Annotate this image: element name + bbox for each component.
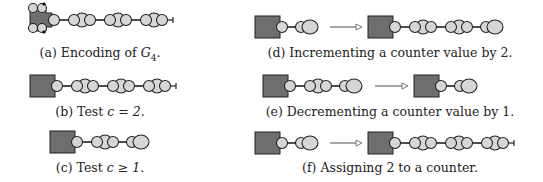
- counter-left: [446, 22, 457, 33]
- caption-text: Decrementing a counter value by 1.: [287, 104, 514, 119]
- caption-end: .: [156, 45, 160, 60]
- tail-ellipse: [346, 79, 362, 93]
- counter-right: [85, 15, 96, 26]
- caption-d: (d) Incrementing a counter value by 2.: [268, 45, 513, 60]
- counter-left: [482, 138, 493, 149]
- caption-e: (e) Decrementing a counter value by 1.: [266, 104, 515, 119]
- tail-ellipse: [302, 20, 318, 34]
- head-circle: [390, 138, 401, 149]
- counter-left: [410, 138, 421, 149]
- caption-math: c ≥ 1: [107, 160, 140, 175]
- counter-right: [108, 137, 119, 148]
- port-circle: [29, 4, 38, 13]
- counter-right: [498, 138, 509, 149]
- head-circle: [277, 22, 288, 33]
- counter-right: [462, 22, 473, 33]
- counter-right: [462, 138, 473, 149]
- caption-text: Test: [77, 160, 107, 175]
- caption-end: .: [141, 104, 145, 119]
- counter-right: [121, 15, 132, 26]
- counter-left: [108, 81, 119, 92]
- caption-c: (c) Test c ≥ 1.: [56, 160, 144, 175]
- arrowhead-icon: [402, 83, 408, 89]
- arrowhead-icon: [356, 24, 362, 30]
- counter-right: [321, 81, 332, 92]
- tail-ellipse: [487, 20, 503, 34]
- head-circle: [72, 137, 83, 148]
- caption-a: (a) Encoding of G4.: [40, 45, 161, 63]
- counter-right: [160, 81, 171, 92]
- head-circle: [390, 22, 401, 33]
- head-circle: [52, 81, 63, 92]
- counter-right: [124, 81, 135, 92]
- caption-math: G: [141, 45, 151, 60]
- caption-text: Encoding of: [61, 45, 141, 60]
- counter-left: [305, 81, 316, 92]
- counter-left: [144, 81, 155, 92]
- caption-text: Test: [77, 104, 107, 119]
- counter-right: [426, 138, 437, 149]
- counter-left: [92, 137, 103, 148]
- caption-math: c = 2: [107, 104, 140, 119]
- counter-left: [410, 22, 421, 33]
- counter-right: [426, 22, 437, 33]
- arrowhead-icon: [356, 140, 362, 146]
- port-dot: [42, 2, 45, 5]
- head-circle: [49, 15, 60, 26]
- counter-left: [446, 138, 457, 149]
- port-circle: [29, 24, 38, 33]
- caption-text: Incrementing a counter value by 2.: [289, 45, 512, 60]
- port-dot: [42, 30, 45, 33]
- counter-left: [105, 15, 116, 26]
- caption-b: (b) Test c = 2.: [55, 104, 144, 119]
- caption-label: (a): [40, 45, 57, 60]
- counter-right: [88, 81, 99, 92]
- counter-left: [141, 15, 152, 26]
- head-circle: [436, 81, 447, 92]
- caption-label: (b): [55, 104, 73, 119]
- diagram-canvas: [0, 0, 543, 182]
- counter-left: [72, 81, 83, 92]
- tail-ellipse: [302, 136, 318, 150]
- caption-f: (f) Assigning 2 to a counter.: [302, 160, 478, 175]
- tail-ellipse: [461, 79, 477, 93]
- caption-text: Assigning 2 to a counter.: [320, 160, 477, 175]
- counter-right: [157, 15, 168, 26]
- caption-label: (e): [266, 104, 283, 119]
- tail-ellipse: [133, 135, 149, 149]
- counter-left: [69, 15, 80, 26]
- caption-label: (f): [302, 160, 316, 175]
- head-circle: [277, 138, 288, 149]
- head-circle: [285, 81, 296, 92]
- caption-label: (c): [56, 160, 73, 175]
- caption-label: (d): [268, 45, 286, 60]
- caption-end: .: [140, 160, 144, 175]
